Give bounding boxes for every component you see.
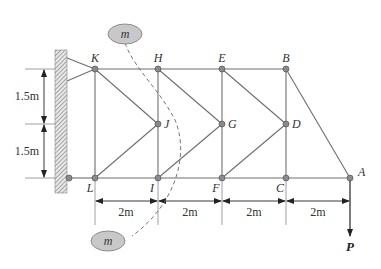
dimension-label-3: 2m — [246, 205, 262, 219]
node-label-f: F — [211, 181, 220, 195]
dimension-label-2: 2m — [182, 205, 198, 219]
mass-top-label: m — [121, 27, 130, 41]
load-label: P — [346, 239, 355, 254]
dimension-label-lower: 1.5m — [15, 144, 40, 158]
dimension-label-upper: 1.5m — [15, 89, 40, 103]
node-a — [347, 175, 353, 181]
node-label-b: B — [282, 51, 290, 65]
node-label-g: G — [228, 117, 237, 131]
fixed-wall — [55, 50, 67, 193]
node-g — [219, 121, 225, 127]
dimension-label-1: 2m — [118, 205, 134, 219]
mass-top: m — [108, 24, 142, 44]
node-label-a: A — [357, 165, 366, 179]
node-j — [155, 121, 161, 127]
node-d — [283, 121, 289, 127]
dimension-label-4: 2m — [310, 205, 326, 219]
node-f — [219, 175, 225, 181]
wall-pin — [66, 175, 72, 181]
mass-bottom: m — [91, 231, 125, 251]
node-label-c: C — [276, 181, 285, 195]
node-label-l: L — [86, 181, 94, 195]
node-label-j: J — [164, 117, 170, 131]
node-label-k: K — [90, 51, 100, 65]
node-b — [283, 66, 289, 72]
node-label-i: I — [149, 181, 155, 195]
node-label-d: D — [291, 117, 301, 131]
mass-bottom-label: m — [104, 234, 113, 248]
node-label-h: H — [153, 51, 164, 65]
node-i — [155, 175, 161, 181]
truss-diagram: 1.5m 1.5m 2m 2m 2m 2m P — [0, 0, 381, 269]
node-h — [155, 66, 161, 72]
node-label-e: E — [217, 51, 226, 65]
node-k — [92, 66, 98, 72]
truss-members — [67, 58, 350, 178]
node-e — [219, 66, 225, 72]
truss-nodes — [66, 66, 353, 181]
